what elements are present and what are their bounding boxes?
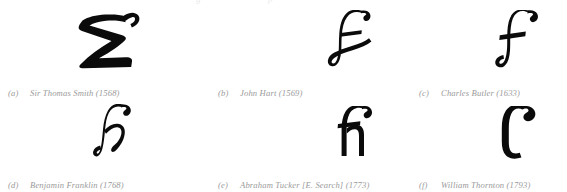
figure-caption-d: (d) Benjamin Franklin (1768)	[0, 162, 210, 191]
figure-sheet: g p (a) Sir Thomas Smith (1568)	[0, 0, 567, 192]
smith-sh-glyph	[0, 10, 210, 72]
tucker-sh-glyph	[210, 100, 415, 162]
figure-caption-text-d: Benjamin Franklin (1768)	[30, 180, 124, 191]
remnant-glyph-a: g	[196, 0, 201, 4]
butler-sh-glyph	[415, 10, 567, 72]
figure-caption-label-a: (a)	[8, 88, 30, 99]
hart-sh-glyph	[210, 10, 415, 72]
franklin-ish-glyph	[0, 100, 210, 162]
figure-caption-text-e: Abraham Tucker [E. Search] (1773)	[240, 180, 369, 191]
figure-item-a: (a) Sir Thomas Smith (1568)	[0, 10, 210, 99]
figure-row-bottom: (d) Benjamin Franklin (1768) (e) Abraham…	[0, 100, 567, 191]
figure-caption-label-d: (d)	[8, 180, 30, 191]
figure-item-d: (d) Benjamin Franklin (1768)	[0, 100, 210, 191]
figure-caption-text-a: Sir Thomas Smith (1568)	[30, 88, 120, 99]
cropped-text-remnant: g p	[0, 0, 567, 6]
figure-item-f: (f) William Thornton (1793)	[415, 100, 567, 191]
figure-caption-f: (f) William Thornton (1793)	[415, 162, 567, 191]
figure-caption-a: (a) Sir Thomas Smith (1568)	[0, 72, 210, 99]
figure-caption-b: (b) John Hart (1569)	[210, 72, 415, 99]
figure-caption-label-e: (e)	[218, 180, 240, 191]
figure-item-c: (c) Charles Butler (1633)	[415, 10, 567, 99]
figure-caption-label-b: (b)	[218, 88, 240, 99]
figure-caption-label-f: (f)	[419, 180, 441, 191]
figure-caption-c: (c) Charles Butler (1633)	[415, 72, 567, 99]
figure-row-top: (a) Sir Thomas Smith (1568) (b) John Har…	[0, 10, 567, 99]
figure-caption-text-f: William Thornton (1793)	[441, 180, 530, 191]
figure-caption-e: (e) Abraham Tucker [E. Search] (1773)	[210, 162, 415, 191]
figure-caption-text-b: John Hart (1569)	[240, 88, 303, 99]
figure-item-b: (b) John Hart (1569)	[210, 10, 415, 99]
figure-item-e: (e) Abraham Tucker [E. Search] (1773)	[210, 100, 415, 191]
thornton-sh-glyph	[415, 100, 567, 162]
figure-caption-label-c: (c)	[419, 88, 441, 99]
figure-caption-text-c: Charles Butler (1633)	[441, 88, 520, 99]
remnant-glyph-b: p	[268, 0, 273, 4]
